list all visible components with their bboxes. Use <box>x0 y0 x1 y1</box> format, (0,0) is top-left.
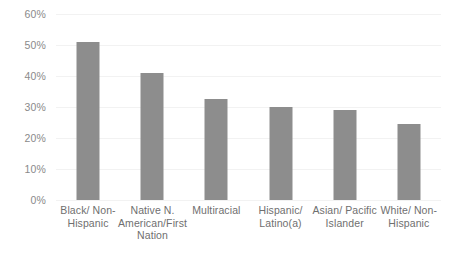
bar[interactable] <box>333 110 356 200</box>
bar-slot <box>313 14 377 200</box>
bar[interactable] <box>77 42 100 200</box>
x-axis-category-label: Multiracial <box>182 204 250 217</box>
x-axis-category-label: Hispanic/Latino(a) <box>247 204 315 229</box>
x-axis-category-label: Native N.American/FirstNation <box>113 204 192 242</box>
x-axis-category-label: Asian/ PacificIslander <box>309 204 381 229</box>
y-axis-tick-label: 0% <box>0 195 46 206</box>
y-axis-tick-label: 30% <box>0 102 46 113</box>
bar-slot <box>377 14 441 200</box>
bar[interactable] <box>269 107 292 200</box>
x-axis-category-label: Black/ Non-Hispanic <box>54 204 122 229</box>
bar[interactable] <box>205 99 228 200</box>
bar-series <box>56 14 441 200</box>
y-axis-tick-label: 40% <box>0 71 46 82</box>
y-axis-tick-label: 60% <box>0 9 46 20</box>
x-axis-category-label: White/ Non-Hispanic <box>375 204 443 229</box>
bar-slot <box>249 14 313 200</box>
bar-slot <box>56 14 120 200</box>
y-axis-tick-label: 10% <box>0 164 46 175</box>
bar-slot <box>120 14 184 200</box>
bar-slot <box>184 14 248 200</box>
y-axis: 60% 50% 40% 30% 20% 10% 0% <box>0 0 52 263</box>
gridline-0 <box>56 200 441 201</box>
bar-chart: 60% 50% 40% 30% 20% 10% 0% Black/ Non-Hi… <box>0 0 449 263</box>
bar[interactable] <box>397 124 420 200</box>
y-axis-tick-label: 50% <box>0 40 46 51</box>
x-axis: Black/ Non-Hispanic Native N.American/Fi… <box>56 204 441 262</box>
y-axis-tick-label: 20% <box>0 133 46 144</box>
bar[interactable] <box>141 73 164 200</box>
